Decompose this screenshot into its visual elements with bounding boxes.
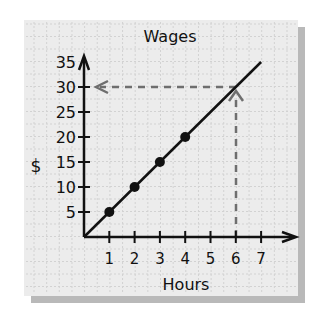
y-tick-label: 25	[56, 103, 76, 122]
data-point	[130, 182, 140, 192]
chart-title: Wages	[144, 27, 197, 46]
data-point	[104, 207, 114, 217]
x-tick-label: 2	[130, 250, 140, 268]
data-point	[155, 157, 165, 167]
x-tick-label: 4	[180, 250, 190, 268]
y-tick-label: 10	[56, 178, 76, 197]
x-tick-label: 7	[256, 250, 266, 268]
y-axis-label: $	[31, 156, 42, 176]
y-tick-label: 5	[66, 203, 76, 222]
y-tick-label: 30	[56, 78, 76, 97]
wages-chart: Wages $ Hours 12345675101520253035	[0, 0, 322, 317]
x-tick-label: 6	[231, 250, 241, 268]
x-tick-label: 1	[105, 250, 115, 268]
y-tick-label: 15	[56, 153, 76, 172]
y-tick-label: 35	[56, 53, 76, 72]
x-tick-label: 5	[206, 250, 216, 268]
x-axis-label: Hours	[163, 275, 210, 294]
ticks	[78, 87, 261, 243]
data-point	[180, 132, 190, 142]
x-tick-label: 3	[155, 250, 165, 268]
y-tick-label: 20	[56, 128, 76, 147]
guide-lines	[96, 81, 243, 237]
